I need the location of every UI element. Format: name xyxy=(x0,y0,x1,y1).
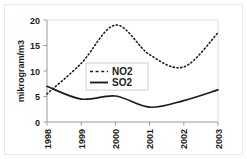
legend: NO2 SO2 xyxy=(86,63,148,90)
y-axis-title: mikrogram/m3 xyxy=(16,40,26,102)
y-tick-label-5: 5 xyxy=(35,92,40,102)
y-tick-label-10: 10 xyxy=(30,67,40,77)
x-tick-label-2001: 2001 xyxy=(145,129,155,149)
x-tick-label-1999: 1999 xyxy=(77,129,87,149)
x-tick-label-2003: 2003 xyxy=(214,129,224,149)
x-tick-label-2000: 2000 xyxy=(111,129,121,149)
y-tick-label-20: 20 xyxy=(30,16,40,26)
y-tick-marks xyxy=(44,20,48,122)
x-tick-label-2002: 2002 xyxy=(179,129,189,149)
line-chart: 0 5 10 15 20 mikrogram/m3 1998 1999 2000… xyxy=(0,0,247,159)
x-tick-marks xyxy=(47,122,218,126)
x-tick-label-1998: 1998 xyxy=(43,129,53,149)
legend-label-no2: NO2 xyxy=(112,66,133,77)
y-tick-label-15: 15 xyxy=(30,41,40,51)
legend-label-so2: SO2 xyxy=(112,77,132,88)
y-tick-label-0: 0 xyxy=(35,118,40,128)
chart-figure: 0 5 10 15 20 mikrogram/m3 1998 1999 2000… xyxy=(0,0,247,159)
